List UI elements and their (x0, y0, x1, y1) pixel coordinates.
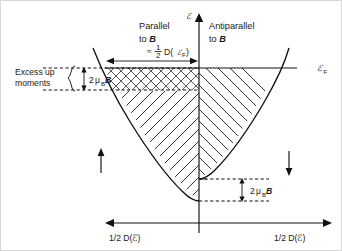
band-diagram-svg: ℰ (1, 1, 342, 251)
energy-axis-label: ℰ (186, 11, 192, 21)
excess-up-moments-label: Excess up moments (15, 67, 55, 88)
excess-label-line1: Excess up (15, 67, 55, 77)
splitting-top-mu: μ (95, 75, 100, 85)
half-dos-rest-suffix: ) (186, 47, 189, 57)
splitting-bottom-field: B (266, 186, 272, 196)
antiparallel-label-line1: Antiparallel (209, 21, 254, 31)
half-dos-annotation: ≈ 1 2 D( ℰ F ) (147, 43, 189, 60)
svg-text:to B: to B (139, 34, 156, 44)
right-dos-axis-label: 1/2 D(ℰ) (274, 233, 305, 243)
antiparallel-label-field: B (219, 34, 226, 44)
splitting-top-prefix: 2 (89, 75, 94, 85)
splitting-bottom-mu: μ (256, 186, 261, 196)
left-dos-axis-label: 1/2 D(ℰ) (109, 233, 140, 243)
right-dos-axis-text: 1/2 D(ℰ) (274, 233, 305, 243)
parallel-label: Parallel to B (139, 21, 170, 44)
left-band-hatching (1, 91, 309, 231)
antiparallel-label-line2-prefix: to (209, 34, 219, 44)
spin-up-marker (98, 148, 105, 173)
antiparallel-label: Antiparallel to B (209, 21, 254, 44)
fermi-level-subscript: F (324, 68, 328, 75)
parallel-label-line1: Parallel (139, 21, 170, 31)
left-band-parabola (93, 48, 199, 201)
left-band-parallel (1, 21, 309, 231)
physics-figure: ℰ (0, 0, 342, 251)
excess-label-line2: moments (15, 78, 50, 88)
fermi-level-label: ℰ (317, 63, 323, 73)
splitting-label-top: 2 μ B B (89, 75, 111, 87)
parallel-label-line2-prefix: to (139, 34, 149, 44)
splitting-top-field: B (105, 75, 111, 85)
half-dos-width-arrow (106, 58, 198, 64)
splitting-bottom-prefix: 2 (250, 186, 255, 196)
excess-brace (68, 66, 75, 91)
splitting-label-bottom: 2 μ B B (250, 186, 272, 198)
half-dos-rest-prefix: D( (164, 47, 173, 57)
left-dos-axis-text: 1/2 D(ℰ) (109, 233, 140, 243)
svg-text:to B: to B (209, 34, 226, 44)
density-of-states-axis (105, 219, 332, 227)
half-dos-approx-sign: ≈ (147, 46, 152, 56)
spin-down-marker (286, 151, 293, 176)
half-dos-denominator: 2 (156, 51, 161, 60)
